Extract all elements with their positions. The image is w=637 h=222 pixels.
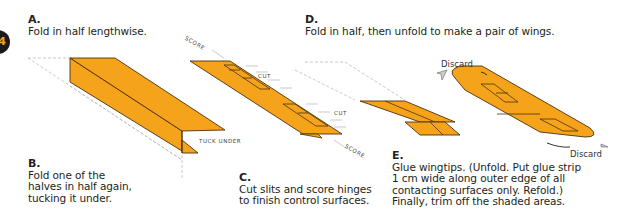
step-b-letter: B.: [28, 158, 132, 170]
step-a-text: Fold in half lengthwise.: [28, 26, 147, 38]
step-d-text: Fold in half, then unfold to make a pair…: [305, 26, 554, 38]
step-c-letter: C.: [239, 172, 372, 184]
step-d-letter: D.: [305, 14, 554, 26]
discard-label-top: Discard: [441, 59, 473, 69]
cut-strip-shape: [190, 50, 346, 148]
step-e-letter: E.: [392, 150, 581, 162]
discard-label-bottom: Discard: [570, 149, 602, 159]
step-e: E. Glue wingtips. (Unfold. Put glue stri…: [392, 150, 581, 208]
step-a-letter: A.: [28, 14, 147, 26]
wing-folding-diagram: 4: [0, 0, 637, 222]
cut-label-bottom: CUT: [334, 110, 347, 116]
step-c: C. Cut slits and score hinges to finish …: [239, 172, 372, 207]
tuck-under-label: TUCK UNDER: [199, 138, 241, 144]
step-b-text: Fold one of the halves in half again, tu…: [28, 170, 132, 205]
step-a: A. Fold in half lengthwise.: [28, 14, 147, 37]
step-b: B. Fold one of the halves in half again,…: [28, 158, 132, 204]
glued-wing-shape: [437, 66, 608, 147]
cut-label-top: CUT: [258, 73, 271, 79]
step-e-text: Glue wingtips. (Unfold. Put glue strip 1…: [392, 162, 581, 208]
step-d: D. Fold in half, then unfold to make a p…: [305, 14, 554, 37]
step-c-text: Cut slits and score hinges to finish con…: [239, 184, 372, 207]
